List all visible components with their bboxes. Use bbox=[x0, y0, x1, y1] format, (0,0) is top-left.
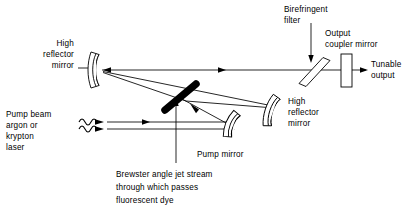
output-coupler-line2: coupler mirror bbox=[325, 40, 378, 49]
pump-squiggle-lower-arrow bbox=[95, 126, 104, 131]
pump-squiggle-upper bbox=[79, 119, 97, 125]
label-high-reflector-mirror-right: High reflector mirror bbox=[288, 97, 319, 128]
label-output-coupler-mirror: Output coupler mirror bbox=[325, 29, 378, 49]
diagram-canvas: High reflector mirror Birefringent filte… bbox=[0, 0, 413, 211]
dye-jet-stream[interactable] bbox=[165, 84, 196, 110]
label-jet-stream: Brewster angle jet stream through which … bbox=[116, 170, 213, 205]
birefringent-filter-line1: Birefringent bbox=[284, 5, 328, 14]
label-pump-mirror: Pump mirror bbox=[197, 150, 244, 159]
label-birefringent-filter: Birefringent filter bbox=[284, 5, 328, 25]
label-pump-beam: Pump beam argon or krypton laser bbox=[6, 110, 52, 152]
pump-beam-line1: Pump beam bbox=[6, 110, 52, 119]
pump-beam-reflect-arrow bbox=[190, 104, 199, 114]
label-high-reflector-mirror-left: High reflector mirror bbox=[43, 39, 74, 70]
pump-mirror[interactable] bbox=[221, 109, 241, 139]
jet-stream-line2: through which passes bbox=[116, 183, 198, 192]
pump-beam-direction-arrow bbox=[142, 119, 150, 124]
tunable-output-arrow bbox=[360, 67, 368, 72]
pump-beam-squiggles bbox=[79, 119, 104, 132]
high-reflector-mirror-right[interactable] bbox=[260, 93, 281, 128]
birefringent-filter-leader bbox=[308, 23, 313, 63]
pump-squiggle-lower bbox=[79, 126, 97, 132]
birefringent-filter-line2: filter bbox=[284, 16, 300, 25]
cavity-beam-horizontal bbox=[102, 67, 341, 72]
high-reflector-left-line1: High bbox=[57, 39, 75, 48]
label-tunable-output: Tunable output bbox=[371, 60, 402, 80]
pump-beam-line2: argon or bbox=[6, 121, 38, 130]
tunable-output-line2: output bbox=[371, 71, 395, 80]
laser-cavity-diagram: High reflector mirror Birefringent filte… bbox=[0, 0, 413, 211]
high-reflector-right-line1: High bbox=[288, 97, 306, 106]
output-coupler-mirror[interactable] bbox=[341, 54, 352, 87]
pump-beam-line3: krypton bbox=[6, 132, 34, 141]
tunable-output-line1: Tunable bbox=[371, 60, 402, 69]
jet-stream-line3: fluorescent dye bbox=[116, 196, 174, 205]
tunable-output-beam bbox=[352, 67, 368, 72]
pump-squiggle-upper-arrow bbox=[95, 119, 104, 124]
pump-mirror-label: Pump mirror bbox=[197, 150, 244, 159]
high-reflector-left-line2: reflector bbox=[43, 50, 74, 59]
high-reflector-left-line3: mirror bbox=[52, 61, 74, 70]
pump-beam-input bbox=[107, 119, 235, 129]
high-reflector-right-line3: mirror bbox=[288, 119, 310, 128]
jet-stream-leader bbox=[173, 98, 178, 163]
jet-stream-line1: Brewster angle jet stream bbox=[116, 170, 213, 179]
cavity-beam-direction-arrow bbox=[218, 67, 226, 72]
high-reflector-mirror-left[interactable] bbox=[88, 52, 99, 88]
pump-beam-line4: laser bbox=[6, 143, 25, 152]
birefringent-filter[interactable] bbox=[299, 58, 330, 87]
high-reflector-right-line2: reflector bbox=[288, 108, 319, 117]
output-coupler-line1: Output bbox=[325, 29, 351, 38]
